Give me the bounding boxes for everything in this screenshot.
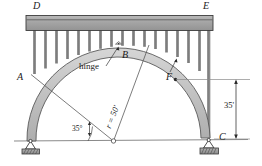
label-crown-hinge-b: B: [122, 50, 128, 60]
support-a: [22, 139, 40, 154]
label-support-c: C: [219, 132, 226, 142]
deck-beam: [26, 16, 213, 31]
point-f-leader-arrow: [174, 59, 177, 63]
label-height-35ft: 35': [224, 101, 234, 110]
label-point-f: F: [166, 72, 172, 82]
label-deck-left-d: D: [33, 1, 40, 11]
ground-line: [14, 140, 248, 142]
label-support-a: A: [17, 72, 23, 82]
crown-hinge-detail: [116, 42, 122, 45]
support-c: [200, 138, 219, 154]
label-deck-right-e: E: [203, 1, 209, 11]
label-hinge-note: hinge: [79, 62, 99, 71]
angle-annotation: [88, 122, 93, 142]
arch-bridge-figure: D E A C B F hinge r = 50' 35° 35': [0, 0, 262, 166]
arc-center-marker: [111, 139, 115, 143]
label-angle-35deg: 35°: [72, 125, 83, 133]
